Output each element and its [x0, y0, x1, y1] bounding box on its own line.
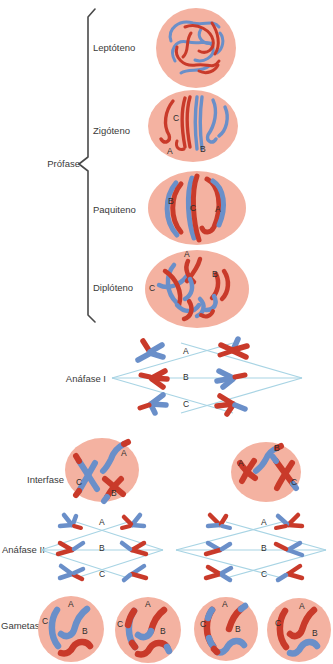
- marker-interfase-left-a: A: [121, 448, 127, 458]
- interfase-right-cell: [230, 441, 304, 505]
- marker-gameta-4-c: C: [275, 618, 281, 628]
- marker-interfase-right-c: C: [291, 477, 297, 487]
- paquiteno-cell: [147, 170, 248, 247]
- marker-anafase-i-c: C: [183, 399, 189, 409]
- leptoteno-cell: [155, 7, 237, 89]
- marker-gameta-3-c: C: [200, 619, 206, 629]
- marker-interfase-right-b: B: [274, 443, 280, 453]
- stage-label-leptoteno: Leptóteno: [93, 42, 135, 53]
- marker-gameta-3-b: B: [235, 624, 241, 634]
- stage-label-gametas: Gametas: [1, 620, 40, 631]
- marker-diploteno-c: C: [149, 283, 155, 293]
- anafase-ii-right-spindle: [170, 510, 333, 590]
- marker-gameta-2-c: C: [117, 619, 123, 629]
- stage-label-paquiteno: Paquiteno: [93, 204, 136, 215]
- marker-gameta-1-a: A: [68, 599, 74, 609]
- marker-paquiteno-c: C: [190, 203, 196, 213]
- marker-zigoteno-b: B: [200, 144, 206, 154]
- anafase-i-spindle: [105, 333, 310, 425]
- marker-gameta-2-b: B: [160, 626, 166, 636]
- zigoteno-cell: [147, 89, 240, 164]
- stage-label-zigoteno: Zigóteno: [93, 125, 130, 136]
- marker-gameta-4-b: B: [312, 628, 318, 638]
- marker-anafase-ii-left-b: B: [99, 543, 105, 553]
- marker-anafase-i-a: A: [183, 346, 189, 356]
- marker-gameta-3-a: A: [222, 599, 228, 609]
- meiosis-diagram: Prófase Leptóteno Zigóteno Paquiteno Dip…: [0, 0, 333, 664]
- stage-label-profase: Prófase: [38, 158, 80, 169]
- stage-label-diploteno: Diplóteno: [93, 282, 133, 293]
- marker-zigoteno-c: C: [173, 113, 179, 123]
- marker-anafase-ii-left-c: C: [99, 569, 105, 579]
- diploteno-cell: [144, 249, 251, 330]
- marker-gameta-1-c: C: [42, 616, 48, 626]
- marker-interfase-right-a: A: [238, 458, 244, 468]
- marker-gameta-4-a: A: [299, 601, 305, 611]
- marker-anafase-ii-right-b: B: [261, 543, 267, 553]
- marker-anafase-ii-right-a: A: [261, 517, 267, 527]
- marker-zigoteno-a: A: [167, 146, 173, 156]
- marker-gameta-1-b: B: [82, 626, 88, 636]
- marker-anafase-ii-left-a: A: [99, 517, 105, 527]
- marker-diploteno-b: B: [212, 269, 218, 279]
- marker-anafase-i-b: B: [183, 372, 189, 382]
- interfase-left-cell: [63, 437, 142, 505]
- marker-gameta-2-a: A: [145, 599, 151, 609]
- stage-label-interfase: Interfase: [27, 474, 64, 485]
- marker-interfase-left-c: C: [76, 477, 82, 487]
- stage-label-anafase-i: Anáfase I: [60, 373, 106, 384]
- marker-anafase-ii-right-c: C: [261, 569, 267, 579]
- marker-paquiteno-a: A: [215, 204, 221, 214]
- marker-interfase-left-b: B: [111, 488, 117, 498]
- marker-paquiteno-b: B: [168, 196, 174, 206]
- marker-diploteno-a: A: [184, 249, 190, 259]
